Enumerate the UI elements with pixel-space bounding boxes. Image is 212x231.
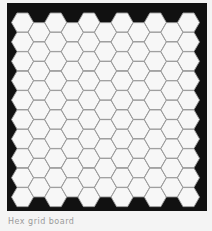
- caption: Hex grid board: [8, 217, 74, 226]
- hex-grid: [12, 13, 200, 207]
- hex-board: [0, 0, 212, 215]
